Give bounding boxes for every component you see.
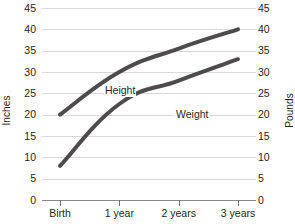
- x-axis-ticks: [42, 200, 256, 206]
- y-tick-right-40: 40: [258, 24, 280, 35]
- y-tick-right-45: 45: [258, 3, 280, 14]
- plot-area: Height Weight: [42, 8, 256, 200]
- y-axis-left-title: Inches: [1, 89, 12, 133]
- x-tick-1-year: [119, 200, 120, 206]
- y-axis-left-ticks: 051015202530354045: [14, 0, 36, 224]
- y-tick-right-20: 20: [258, 109, 280, 120]
- series-annotation-height: Height: [104, 85, 136, 97]
- growth-chart: Inches Pounds 051015202530354045 0510152…: [0, 0, 294, 224]
- series-container: [42, 8, 256, 200]
- y-tick-left-20: 20: [14, 109, 36, 120]
- y-tick-left-5: 5: [14, 173, 36, 184]
- y-tick-right-25: 25: [258, 88, 280, 99]
- y-tick-left-45: 45: [14, 3, 36, 14]
- x-tick-3-years: [238, 200, 239, 206]
- y-axis-right-title: Pounds: [284, 88, 295, 134]
- x-tick-label-2-years: 2 years: [161, 208, 195, 220]
- x-tick-birth: [60, 200, 61, 206]
- series-line-height: [60, 29, 238, 114]
- series-line-weight: [60, 59, 238, 166]
- y-tick-left-35: 35: [14, 45, 36, 56]
- y-tick-right-30: 30: [258, 67, 280, 78]
- y-tick-right-35: 35: [258, 45, 280, 56]
- y-tick-left-25: 25: [14, 88, 36, 99]
- y-tick-left-0: 0: [14, 195, 36, 206]
- y-tick-left-15: 15: [14, 131, 36, 142]
- x-axis-labels: Birth1 year2 years3 years: [42, 208, 256, 222]
- y-tick-left-10: 10: [14, 152, 36, 163]
- y-tick-left-40: 40: [14, 24, 36, 35]
- y-tick-right-10: 10: [258, 152, 280, 163]
- x-tick-label-birth: Birth: [49, 208, 71, 220]
- y-axis-right-ticks: 051015202530354045: [258, 0, 280, 224]
- x-tick-label-3-years: 3 years: [221, 208, 255, 220]
- y-tick-right-5: 5: [258, 173, 280, 184]
- x-tick-label-1-year: 1 year: [105, 208, 134, 220]
- series-annotation-weight: Weight: [175, 109, 210, 121]
- y-tick-right-0: 0: [258, 195, 280, 206]
- y-tick-right-15: 15: [258, 131, 280, 142]
- x-tick-2-years: [179, 200, 180, 206]
- y-tick-left-30: 30: [14, 67, 36, 78]
